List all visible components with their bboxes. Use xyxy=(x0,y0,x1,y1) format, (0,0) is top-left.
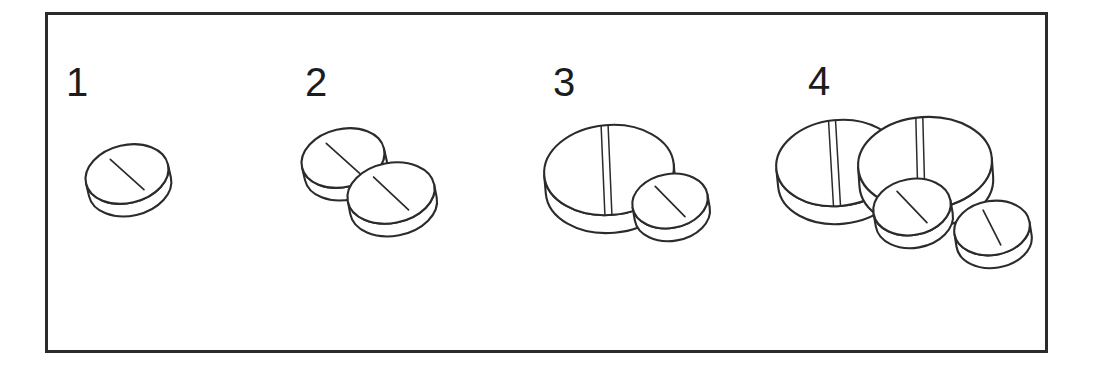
tablet-group-4: 4 xyxy=(772,59,1036,273)
tablet-dose-illustration: 1 2 3 xyxy=(0,0,1094,370)
group-label-3: 3 xyxy=(553,60,575,104)
group-label-2: 2 xyxy=(305,60,327,104)
small-tablet xyxy=(80,136,178,224)
tablet-group-2: 2 xyxy=(296,60,443,244)
tablet-group-1: 1 xyxy=(66,60,177,224)
illustration-canvas: 1 2 3 xyxy=(0,0,1094,370)
tablet-group-3: 3 xyxy=(540,60,714,247)
group-label-4: 4 xyxy=(808,59,830,103)
group-label-1: 1 xyxy=(66,60,88,104)
